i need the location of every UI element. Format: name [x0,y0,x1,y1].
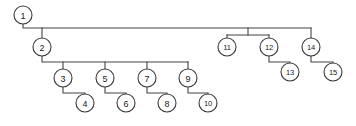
node-label-9: 9 [185,74,190,84]
connector-leaf-12-13 [269,56,290,63]
connector-leaf-9-10 [188,87,208,94]
node-label-15: 15 [329,68,337,77]
node-label-3: 3 [60,74,65,84]
node-label-12: 12 [265,43,273,52]
tree-node-12[interactable]: 12 [260,38,278,56]
connector-leaf-14-15 [311,56,333,63]
tree-node-14[interactable]: 14 [302,38,320,56]
node-label-10: 10 [204,99,212,108]
tree-node-5[interactable]: 5 [96,69,114,87]
node-label-4: 4 [82,99,87,109]
node-label-2: 2 [39,43,44,53]
tree-diagram-canvas: 123456789101112131415 [0,0,356,126]
tree-node-9[interactable]: 9 [179,69,197,87]
tree-node-1[interactable]: 1 [14,6,32,24]
tree-node-4[interactable]: 4 [76,94,94,112]
tree-node-15[interactable]: 15 [324,63,342,81]
node-label-8: 8 [164,99,169,109]
node-label-7: 7 [144,74,149,84]
node-label-6: 6 [123,99,128,109]
tree-node-13[interactable]: 13 [281,63,299,81]
connector-node2-bus [42,56,188,62]
node-label-11: 11 [223,43,230,52]
connector-leaf-5-6 [105,87,126,94]
nodes-group: 123456789101112131415 [14,6,342,112]
tree-diagram: 123456789101112131415 [0,0,356,126]
tree-node-10[interactable]: 10 [199,94,217,112]
connector-leaf-7-8 [147,87,167,94]
connector-leaf-3-4 [63,87,85,94]
tree-node-6[interactable]: 6 [117,94,135,112]
node-label-1: 1 [20,11,25,21]
node-label-13: 13 [286,68,294,77]
connector-root-bus [23,24,311,28]
node-label-5: 5 [102,74,107,84]
tree-node-3[interactable]: 3 [54,69,72,87]
tree-node-11[interactable]: 11 [218,38,236,56]
tree-node-7[interactable]: 7 [138,69,156,87]
tree-node-8[interactable]: 8 [158,94,176,112]
node-label-14: 14 [307,43,315,52]
tree-node-2[interactable]: 2 [33,38,51,56]
